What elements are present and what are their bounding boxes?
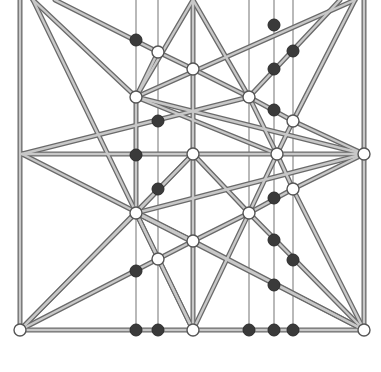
black-piece[interactable] — [268, 63, 280, 75]
black-piece[interactable] — [152, 183, 164, 195]
empty-point[interactable] — [358, 324, 370, 336]
black-piece[interactable] — [130, 149, 142, 161]
empty-point[interactable] — [152, 253, 164, 265]
empty-point[interactable] — [287, 115, 299, 127]
empty-point[interactable] — [130, 91, 142, 103]
empty-point[interactable] — [187, 324, 199, 336]
empty-point[interactable] — [187, 63, 199, 75]
empty-point[interactable] — [287, 183, 299, 195]
board-line — [249, 213, 364, 330]
black-piece[interactable] — [268, 324, 280, 336]
board-line — [136, 213, 193, 330]
black-piece[interactable] — [287, 254, 299, 266]
empty-point[interactable] — [271, 148, 283, 160]
black-piece[interactable] — [287, 45, 299, 57]
black-piece[interactable] — [268, 234, 280, 246]
board-line — [55, 0, 158, 52]
game-board — [0, 0, 381, 372]
empty-point[interactable] — [243, 207, 255, 219]
black-piece[interactable] — [268, 192, 280, 204]
black-piece[interactable] — [287, 324, 299, 336]
black-piece[interactable] — [268, 104, 280, 116]
board-line — [136, 154, 364, 213]
empty-point[interactable] — [358, 148, 370, 160]
empty-point[interactable] — [152, 46, 164, 58]
empty-point[interactable] — [243, 91, 255, 103]
black-piece[interactable] — [152, 324, 164, 336]
board-line — [136, 0, 355, 97]
black-piece[interactable] — [268, 19, 280, 31]
black-piece[interactable] — [152, 115, 164, 127]
black-piece[interactable] — [268, 279, 280, 291]
black-piece[interactable] — [130, 265, 142, 277]
empty-point[interactable] — [187, 235, 199, 247]
black-piece[interactable] — [130, 324, 142, 336]
board-line — [193, 213, 249, 330]
board-line — [20, 154, 193, 330]
black-piece[interactable] — [243, 324, 255, 336]
empty-point[interactable] — [130, 207, 142, 219]
empty-point[interactable] — [14, 324, 26, 336]
empty-point[interactable] — [187, 148, 199, 160]
black-piece[interactable] — [130, 34, 142, 46]
